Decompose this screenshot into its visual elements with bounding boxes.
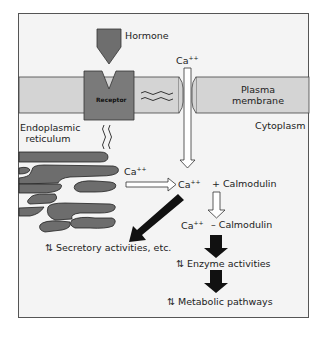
ca-text: Ca [178, 179, 190, 190]
hormone-label: Hormone [125, 31, 169, 42]
endoplasmic-reticulum-label: Endoplasmic reticulum [20, 123, 76, 145]
ca-complex-label: Ca++ [181, 220, 204, 232]
endoplasmic-reticulum [19, 152, 118, 232]
hormone-shape [97, 29, 121, 64]
signal-squiggle-icon [103, 125, 112, 149]
ca-charge: ++ [190, 178, 200, 185]
secretory-label: ⇅ Secretory activities, etc. [45, 243, 171, 254]
er-line2: reticulum [20, 134, 76, 145]
dash-calmodulin-label: – Calmodulin [211, 220, 272, 231]
plasma-membrane-line2: membrane [228, 96, 288, 107]
ca-charge: ++ [193, 219, 203, 226]
ca-text: Ca [181, 220, 193, 231]
plasma-membrane-label: Plasma membrane [228, 85, 288, 107]
ca-charge: ++ [188, 54, 198, 61]
ca-outside-label: Ca++ [176, 55, 199, 67]
receptor-label: Receptor [96, 96, 127, 103]
ca-text: Ca [124, 166, 136, 177]
metabolic-label: ⇅ Metabolic pathways [167, 297, 273, 308]
metabolic-arrow-icon [204, 270, 228, 293]
ca-text: Ca [176, 55, 188, 66]
enzyme-arrow-icon [204, 235, 228, 258]
complex-arrow-icon [208, 192, 225, 218]
er-release-arrow-icon [126, 178, 176, 191]
secretory-arrow-icon [129, 194, 184, 242]
ca-er-label: Ca++ [124, 166, 147, 178]
ca-charge: ++ [136, 165, 146, 172]
cytoplasm-label: Cytoplasm [255, 121, 306, 132]
ca-cyto-label: Ca++ [178, 179, 201, 191]
plus-calmodulin-label: + Calmodulin [212, 179, 277, 190]
enzyme-label: ⇅ Enzyme activities [176, 259, 271, 270]
signaling-diagram [0, 0, 327, 337]
